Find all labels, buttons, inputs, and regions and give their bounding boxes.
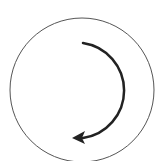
rotation-diagram bbox=[0, 0, 161, 161]
clockwise-arrow-arc bbox=[83, 43, 124, 138]
